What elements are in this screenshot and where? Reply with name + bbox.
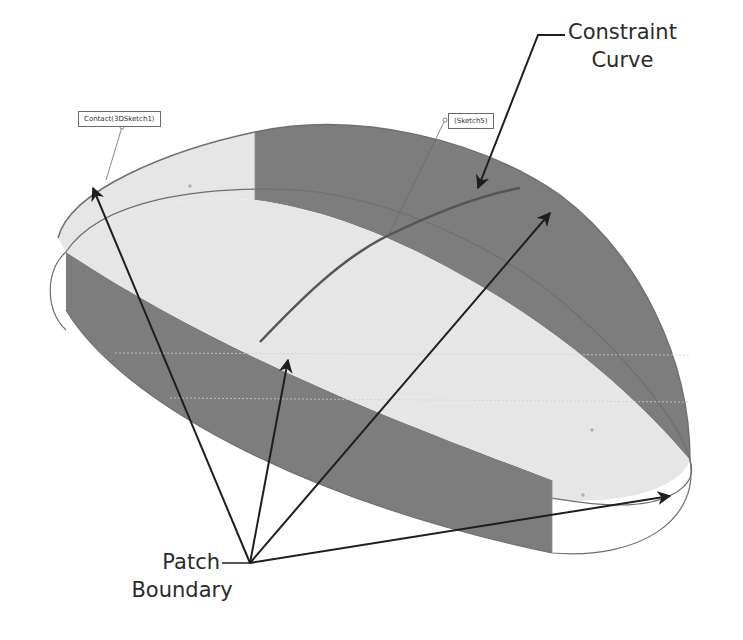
patch-boundary-label-line2: Boundary (122, 576, 242, 604)
patch-boundary-label-line1: Patch (122, 548, 242, 576)
constraint-curve-label-line1: Constraint (568, 18, 677, 46)
left-loop-edge (50, 252, 66, 330)
sketch-tag-dot (443, 118, 447, 122)
constraint-curve-label: Constraint Curve (568, 18, 677, 74)
sketch-tag: (Sketch5) (448, 113, 494, 129)
constraint-curve-label-line2: Curve (568, 46, 677, 74)
contact-tag-leader (106, 127, 122, 180)
contact-tag: Contact(3DSketch1) (78, 111, 161, 127)
patch-boundary-label: Patch Boundary (122, 548, 242, 604)
diagram-canvas (0, 0, 743, 640)
